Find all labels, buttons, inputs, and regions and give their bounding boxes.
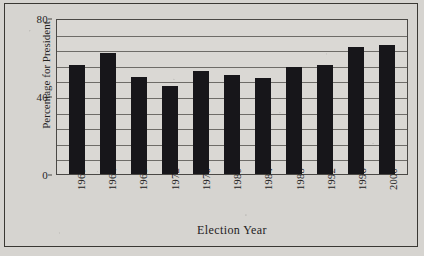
bar-1968 xyxy=(131,77,147,175)
bar-1964 xyxy=(100,53,116,174)
y-tick-mark xyxy=(48,175,52,176)
bar-1992 xyxy=(317,65,333,174)
bar-1972 xyxy=(162,86,178,174)
bar-series xyxy=(57,20,407,174)
x-axis-tick-labels: 1960196419681972197619801984198819921996… xyxy=(56,177,408,217)
y-tick-mark xyxy=(48,19,52,20)
bar-1960 xyxy=(69,65,85,174)
chart-page: Percentage for President 04080 196019641… xyxy=(0,0,424,256)
x-tick-slot: 1960 xyxy=(68,177,84,217)
plot-area xyxy=(56,19,408,175)
bar-1984 xyxy=(255,78,271,174)
bar-1976 xyxy=(193,71,209,174)
x-axis-title: Election Year xyxy=(56,223,408,238)
bar-2000 xyxy=(379,45,395,174)
y-axis-title: Percentage for President xyxy=(40,5,52,145)
y-axis: Percentage for President 04080 xyxy=(22,19,52,175)
y-tick-label-40: 40 xyxy=(36,91,48,103)
y-tick-label-80: 80 xyxy=(36,13,48,25)
bar-1988 xyxy=(286,67,302,174)
bar-1996 xyxy=(348,47,364,174)
bar-1980 xyxy=(224,75,240,174)
y-tick-mark xyxy=(48,97,52,98)
